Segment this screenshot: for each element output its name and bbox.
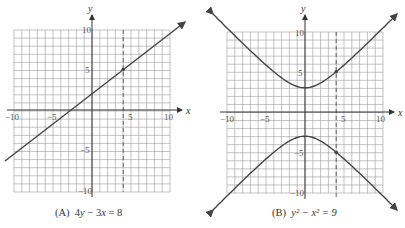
chart-a-point xyxy=(121,68,125,72)
chart-a-tick-x-m5: −5 xyxy=(47,112,57,122)
chart-a-tick-x-m10: −10 xyxy=(5,112,20,122)
chart-a-tick-y-m10: −10 xyxy=(78,186,93,196)
chart-b-x-label: x xyxy=(397,107,403,118)
chart-a-tick-y-p5: 5 xyxy=(85,65,90,75)
chart-b-equation: y² − x² = 9 xyxy=(291,207,337,218)
chart-a-tick-y-p10: 10 xyxy=(82,25,92,35)
chart-b-tick-y-p5: 5 xyxy=(298,68,303,78)
chart-b-caption: (B) y² − x² = 9 xyxy=(272,207,337,218)
chart-a-equation: 4y − 3x = 8 xyxy=(75,207,122,218)
chart-a-tick-x-p10: 10 xyxy=(164,112,174,122)
chart-a: x y −10 −5 5 10 10 5 −5 −10 xyxy=(5,3,191,197)
chart-b-tick-x-m10: −10 xyxy=(220,114,235,124)
chart-a-tick-x-p5: 5 xyxy=(128,112,133,122)
chart-a-line xyxy=(5,22,185,161)
chart-b: x y −10 −5 5 10 10 5 −5 −10 xyxy=(213,3,403,210)
chart-b-tick-y-m5: −5 xyxy=(294,148,304,158)
chart-b-tick-y-m10: −10 xyxy=(290,188,305,198)
chart-b-tick-x-p10: 10 xyxy=(376,114,386,124)
chart-a-caption: (A) 4y − 3x = 8 xyxy=(55,207,122,218)
chart-a-caption-label: (A) xyxy=(55,207,70,218)
chart-b-caption-label: (B) xyxy=(272,207,286,218)
chart-a-y-label: y xyxy=(87,3,93,14)
chart-b-tick-x-m5: −5 xyxy=(260,114,270,124)
chart-a-tick-y-m5: −5 xyxy=(80,145,90,155)
chart-a-x-label: x xyxy=(185,105,191,116)
chart-b-tick-x-p5: 5 xyxy=(341,114,346,124)
figure: x y −10 −5 5 10 10 5 −5 −10 x y −10 −5 5… xyxy=(0,0,405,228)
chart-b-point-lower xyxy=(334,150,338,154)
chart-b-point-upper xyxy=(334,70,338,74)
chart-b-y-label: y xyxy=(300,3,306,14)
chart-b-tick-y-p10: 10 xyxy=(295,28,305,38)
